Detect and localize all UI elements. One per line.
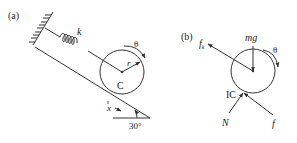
x-label: x: [106, 103, 111, 113]
weight-label: mg: [245, 32, 257, 43]
panel-a: (a) k θ r C x 30°: [8, 10, 150, 131]
spring-force-arrow: [208, 44, 253, 71]
spring-constant-label: k: [77, 26, 82, 37]
angle-arc-icon: [135, 110, 137, 118]
friction-label: f: [272, 118, 276, 129]
instant-center-label: IC: [226, 89, 236, 100]
spring-force-label: fk: [199, 38, 205, 50]
spring-icon: [45, 28, 122, 72]
panel-b-label: (b): [181, 31, 193, 43]
radius-arrow: [122, 62, 140, 72]
friction-force-arrow: [244, 93, 273, 115]
displacement-arrow: [115, 108, 121, 111]
panel-a-label: (a): [8, 10, 19, 22]
radius-label: r: [127, 58, 131, 68]
panel-b: (b) fk mg θ IC N f: [181, 31, 278, 129]
incline-surface: [35, 47, 150, 118]
center-label: C: [117, 80, 124, 91]
free-body-diagram: (a) k θ r C x 30° (b) fk mg θ IC N f: [0, 0, 297, 143]
angle-label: 30°: [129, 121, 142, 131]
normal-label: N: [221, 117, 230, 128]
wall-icon: [29, 12, 53, 45]
theta-label-b: θ: [273, 45, 277, 55]
theta-label: θ: [134, 39, 138, 49]
